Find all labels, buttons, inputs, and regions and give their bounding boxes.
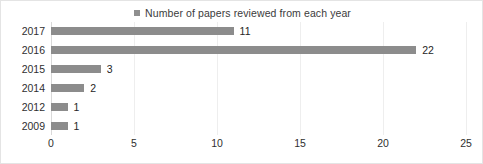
bar-value-label: 2: [90, 82, 96, 94]
bar-chart: Number of papers reviewed from each year…: [0, 0, 483, 164]
bar-value-label: 11: [240, 25, 251, 37]
value-axis-tick-label: 0: [48, 137, 54, 149]
value-axis-tick-label: 25: [460, 137, 472, 149]
plot-area: 11223211: [51, 22, 466, 135]
value-axis-tick-label: 10: [211, 137, 223, 149]
bar-row: 1: [51, 116, 466, 135]
value-axis-labels: 0510152025: [51, 137, 466, 155]
bar: [51, 122, 68, 130]
bar-value-label: 1: [74, 120, 80, 132]
value-axis-tick-label: 15: [294, 137, 306, 149]
bar-value-label: 3: [107, 63, 113, 75]
category-axis-label: 2017: [1, 22, 45, 41]
bar-series: 11223211: [51, 22, 466, 135]
bar: [51, 65, 101, 73]
bar-row: 1: [51, 97, 466, 116]
value-axis-tick-label: 20: [377, 137, 389, 149]
bar-value-label: 22: [422, 44, 434, 56]
bar: [51, 46, 416, 54]
legend-swatch-icon: [134, 10, 140, 16]
bar: [51, 84, 84, 92]
category-axis-label: 2015: [1, 60, 45, 79]
category-axis-labels: 201720162015201420122009: [1, 22, 45, 135]
bar-value-label: 1: [74, 101, 80, 113]
value-axis-tick-label: 5: [131, 137, 137, 149]
bar-row: 11: [51, 22, 466, 41]
gridline: [466, 22, 467, 135]
bar: [51, 103, 68, 111]
category-axis-label: 2016: [1, 41, 45, 60]
bar-row: 3: [51, 60, 466, 79]
category-axis-label: 2014: [1, 79, 45, 98]
category-axis-label: 2012: [1, 97, 45, 116]
chart-legend: Number of papers reviewed from each year: [1, 5, 483, 21]
bar-row: 22: [51, 41, 466, 60]
legend-label: Number of papers reviewed from each year: [145, 7, 351, 19]
bar: [51, 27, 234, 35]
category-axis-label: 2009: [1, 116, 45, 135]
bar-row: 2: [51, 79, 466, 98]
